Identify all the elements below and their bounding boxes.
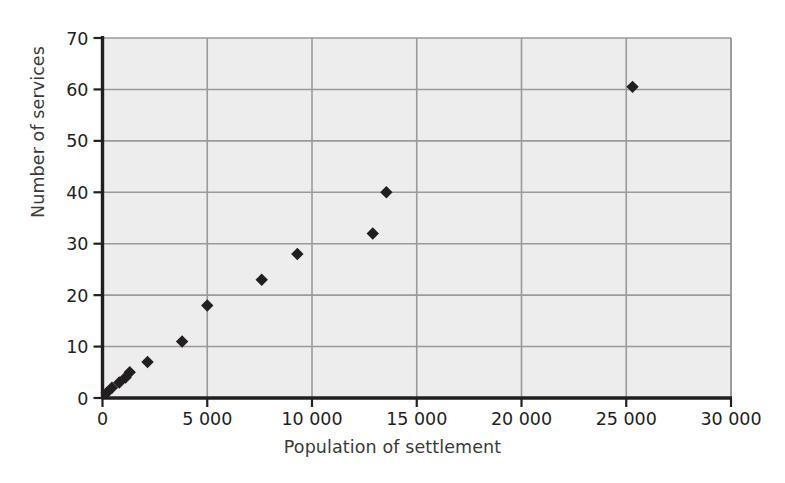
svg-text:20 000: 20 000 bbox=[491, 409, 552, 429]
svg-text:20: 20 bbox=[66, 286, 88, 306]
svg-text:70: 70 bbox=[66, 29, 88, 49]
svg-text:10 000: 10 000 bbox=[281, 409, 342, 429]
svg-text:5 000: 5 000 bbox=[182, 409, 232, 429]
y-axis-title: Number of services bbox=[28, 32, 48, 232]
svg-text:30 000: 30 000 bbox=[700, 409, 761, 429]
svg-text:25 000: 25 000 bbox=[596, 409, 657, 429]
x-axis-title: Population of settlement bbox=[0, 437, 785, 457]
svg-text:60: 60 bbox=[66, 80, 88, 100]
scatter-chart-figure: 01020304050607005 00010 00015 00020 0002… bbox=[0, 0, 785, 483]
plot-canvas: 01020304050607005 00010 00015 00020 0002… bbox=[0, 0, 785, 483]
svg-text:40: 40 bbox=[66, 183, 88, 203]
svg-text:0: 0 bbox=[97, 409, 108, 429]
svg-text:0: 0 bbox=[77, 389, 88, 409]
svg-text:50: 50 bbox=[66, 131, 88, 151]
svg-text:30: 30 bbox=[66, 234, 88, 254]
svg-text:15 000: 15 000 bbox=[386, 409, 447, 429]
svg-text:10: 10 bbox=[66, 337, 88, 357]
